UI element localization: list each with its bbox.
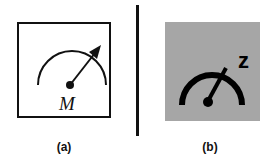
meter-gauge-icon: M bbox=[19, 24, 113, 120]
meter-label: M bbox=[58, 93, 76, 114]
caption-a: (a) bbox=[44, 140, 84, 154]
panel-b-sleep-symbol: z bbox=[165, 22, 260, 121]
caption-b: (b) bbox=[190, 140, 230, 154]
sleep-gauge-icon: z bbox=[165, 22, 260, 121]
panel-a-meter-symbol: M bbox=[17, 22, 111, 118]
panel-divider bbox=[136, 5, 139, 136]
sleep-z-label: z bbox=[238, 48, 249, 73]
